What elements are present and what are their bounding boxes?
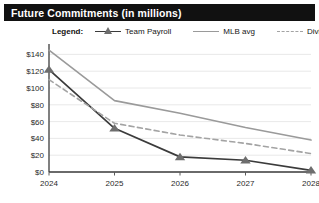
x-axis-tick-labels: 20242025202620272028 bbox=[40, 179, 319, 188]
line-chart-svg: $0$20$40$60$80$100$120$140 2024202520262… bbox=[0, 40, 319, 203]
y-axis-tick-label: $80 bbox=[31, 101, 45, 110]
legend-label-division-avg: Division avg bbox=[307, 27, 319, 36]
y-axis-tick-label: $20 bbox=[31, 151, 45, 160]
chart-plot-area: $0$20$40$60$80$100$120$140 2024202520262… bbox=[0, 40, 319, 203]
legend-label-mlb-avg: MLB avg bbox=[223, 27, 255, 36]
series-line-division-avg bbox=[49, 80, 311, 154]
x-axis-tick-label: 2028 bbox=[302, 179, 319, 188]
legend-label-team-payroll: Team Payroll bbox=[125, 27, 171, 36]
chart-panel: Future Commitments (in millions) Legend:… bbox=[0, 0, 319, 203]
chart-legend: Legend: Team Payroll MLB avg Division av… bbox=[52, 24, 319, 38]
legend-item-mlb-avg[interactable]: MLB avg bbox=[193, 27, 255, 36]
x-axis-tick-label: 2025 bbox=[106, 179, 124, 188]
series-marker-triangle bbox=[44, 65, 54, 73]
y-axis-tick-label: $0 bbox=[35, 168, 44, 177]
x-axis-tick-label: 2024 bbox=[40, 179, 58, 188]
legend-title: Legend: bbox=[52, 27, 83, 36]
x-axis-tick-label: 2027 bbox=[237, 179, 255, 188]
y-axis-tick-labels: $0$20$40$60$80$100$120$140 bbox=[26, 50, 44, 177]
legend-swatch-dashed-line-icon bbox=[277, 27, 303, 36]
y-axis-tick-label: $100 bbox=[26, 84, 44, 93]
series-line-mlb-avg bbox=[49, 50, 311, 140]
legend-swatch-solid-line-icon bbox=[193, 27, 219, 36]
y-axis-tick-label: $60 bbox=[31, 118, 45, 127]
y-axis-tick-label: $140 bbox=[26, 50, 44, 59]
panel-title-bar: Future Commitments (in millions) bbox=[4, 4, 315, 21]
y-axis-tick-label: $120 bbox=[26, 67, 44, 76]
page-title: Future Commitments (in millions) bbox=[11, 7, 182, 19]
legend-swatch-line-marker-icon bbox=[95, 27, 121, 36]
legend-item-division-avg[interactable]: Division avg bbox=[277, 27, 319, 36]
legend-item-team-payroll[interactable]: Team Payroll bbox=[95, 27, 171, 36]
y-axis-tick-label: $40 bbox=[31, 134, 45, 143]
x-axis-tick-label: 2026 bbox=[171, 179, 189, 188]
